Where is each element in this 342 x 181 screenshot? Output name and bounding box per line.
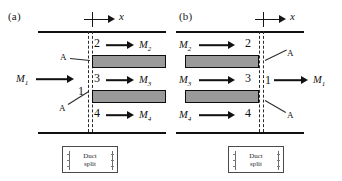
callout-leader-upper-b (265, 50, 287, 61)
axis-origin-tick (92, 12, 93, 27)
axis-arrowhead-icon (279, 15, 286, 23)
callout-label-a-upper: A (287, 48, 294, 58)
inlet-flow-label-3-b: M3 (179, 74, 191, 88)
duct-wall-bottom-b (176, 132, 304, 134)
callout-leader-upper-a (70, 58, 90, 61)
station-number-1-b: 1 (265, 73, 271, 88)
flow-symbol: M (179, 39, 188, 50)
arrow-shaft (106, 79, 128, 81)
duct-wall-bottom-a (38, 132, 166, 134)
flow-subscript: 4 (148, 115, 152, 123)
outlet-flow-label-3-a: M3 (139, 74, 151, 88)
outlet-flow-label-4-a: M4 (139, 109, 151, 123)
arrow-shaft (199, 114, 229, 116)
inlet-flow-label-2-b: M2 (179, 39, 191, 53)
outlet-flow-label-2-a: M2 (139, 39, 151, 53)
legend-box-b: Ductsplit (228, 146, 284, 173)
arrow-head-icon (228, 111, 235, 119)
station-number-4-a: 4 (94, 106, 100, 121)
station-dashed-line-1-a (88, 31, 89, 132)
flow-subscript: 2 (148, 45, 152, 53)
inlet-flow-label-4-b: M4 (179, 109, 191, 123)
station-number-4-b: 4 (245, 106, 251, 121)
flow-subscript: 3 (148, 80, 152, 88)
inlet-flow-label-a: M1 (16, 73, 28, 87)
inlet-flow-arrow-a (36, 74, 76, 84)
flow-subscript: 2 (188, 45, 192, 53)
arrow-head-icon (228, 41, 235, 49)
flow-symbol: M (139, 39, 148, 50)
arrow-head-icon (127, 76, 134, 84)
arrow-shaft (106, 44, 128, 46)
splitter-plate-upper-a (92, 55, 166, 68)
arrow-head-icon (301, 76, 308, 84)
outlet-flow-subscript: 1 (322, 80, 326, 88)
flow-symbol: M (139, 74, 148, 85)
splitter-plate-lower-b (185, 90, 259, 103)
callout-leader-lower-b (265, 100, 286, 113)
outlet-flow-arrow-3-a (106, 75, 136, 85)
axis-horizontal-bar (84, 19, 110, 20)
axis-arrowhead-icon (108, 15, 115, 23)
callout-label-a-lower: A (287, 110, 294, 120)
station-number-3-b: 3 (245, 71, 251, 86)
duct-wall-top-a (38, 31, 166, 33)
arrow-shaft (274, 79, 302, 81)
legend-inner-a: Ductsplit (67, 150, 113, 169)
legend-line-2: split (250, 160, 262, 168)
arrow-shaft (199, 79, 229, 81)
outlet-flow-arrow-b (274, 75, 310, 85)
callout-label-a-upper: A (60, 52, 67, 62)
arrow-head-icon (127, 41, 134, 49)
axis-origin-tick (263, 12, 264, 27)
panel-a-caption: (a) (8, 10, 21, 22)
axis-label-x: x (290, 10, 295, 22)
duct-wall-top-b (176, 31, 304, 33)
inlet-flow-arrow-2-b (199, 40, 237, 50)
outlet-flow-label-b: M1 (313, 74, 325, 88)
station-dashed-line-2-b (263, 31, 264, 132)
arrow-head-icon (67, 75, 74, 83)
inlet-flow-symbol: M (16, 73, 25, 84)
inlet-flow-arrow-3-b (199, 75, 237, 85)
station-number-2-a: 2 (94, 36, 100, 51)
flow-subscript: 4 (188, 115, 192, 123)
station-dashed-line-2-a (92, 31, 93, 132)
arrow-shaft (36, 78, 68, 80)
outlet-flow-arrow-4-a (106, 110, 136, 120)
legend-inner-b: Ductsplit (233, 150, 279, 169)
legend-line-2: split (84, 160, 96, 168)
flow-symbol: M (139, 109, 148, 120)
legend-line-1: Duct (83, 152, 97, 160)
outlet-flow-arrow-2-a (106, 40, 136, 50)
legend-text-b: Ductsplit (249, 152, 263, 168)
arrow-shaft (106, 114, 128, 116)
callout-label-a-lower: A (59, 103, 66, 113)
arrow-head-icon (127, 111, 134, 119)
flow-symbol: M (179, 74, 188, 85)
panel-b: (b) x M2 2 M3 (171, 0, 342, 181)
legend-text-a: Ductsplit (83, 152, 97, 168)
arrow-shaft (199, 44, 229, 46)
flow-subscript: 3 (188, 80, 192, 88)
panel-b-caption: (b) (179, 10, 192, 22)
inlet-flow-subscript: 1 (25, 79, 29, 87)
flow-symbol: M (179, 109, 188, 120)
outlet-flow-symbol: M (313, 74, 322, 85)
station-number-2-b: 2 (245, 36, 251, 51)
arrow-head-icon (228, 76, 235, 84)
splitter-plate-upper-b (185, 55, 259, 68)
axis-label-x: x (119, 10, 124, 22)
station-number-3-a: 3 (94, 71, 100, 86)
duct-split-figure: (a) x M1 1 2 (0, 0, 342, 181)
legend-line-1: Duct (249, 152, 263, 160)
station-dashed-line-1-b (259, 31, 260, 132)
legend-box-a: Ductsplit (62, 146, 118, 173)
inlet-flow-arrow-4-b (199, 110, 237, 120)
axis-horizontal-bar (255, 19, 281, 20)
panel-a: (a) x M1 1 2 (0, 0, 171, 181)
splitter-plate-lower-a (92, 90, 166, 103)
